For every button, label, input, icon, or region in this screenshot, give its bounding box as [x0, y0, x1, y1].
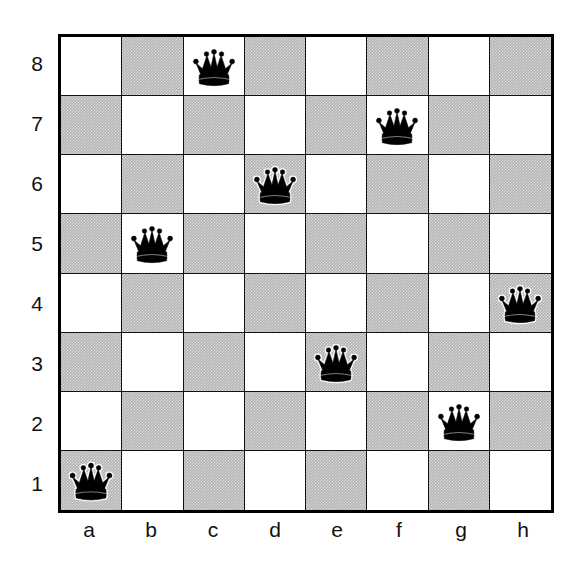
square-d1[interactable]: [245, 451, 306, 510]
square-c8[interactable]: [184, 37, 245, 96]
file-label-b: b: [120, 519, 182, 555]
square-c3[interactable]: [184, 333, 245, 392]
square-f3[interactable]: [367, 333, 428, 392]
queen-icon[interactable]: [129, 221, 175, 265]
square-h8[interactable]: [490, 37, 551, 96]
square-a5[interactable]: [61, 214, 122, 273]
square-d3[interactable]: [245, 333, 306, 392]
square-g2[interactable]: [429, 392, 490, 451]
square-b3[interactable]: [122, 333, 183, 392]
square-a1[interactable]: [61, 451, 122, 510]
square-f2[interactable]: [367, 392, 428, 451]
square-a2[interactable]: [61, 392, 122, 451]
square-e4[interactable]: [306, 274, 367, 333]
rank-label-5: 5: [12, 214, 50, 274]
square-h6[interactable]: [490, 155, 551, 214]
square-f6[interactable]: [367, 155, 428, 214]
square-f1[interactable]: [367, 451, 428, 510]
rank-label-1: 1: [12, 453, 50, 513]
square-a8[interactable]: [61, 37, 122, 96]
square-f5[interactable]: [367, 214, 428, 273]
file-label-f: f: [368, 519, 430, 555]
square-e5[interactable]: [306, 214, 367, 273]
square-e2[interactable]: [306, 392, 367, 451]
square-b6[interactable]: [122, 155, 183, 214]
queen-icon[interactable]: [68, 458, 114, 503]
square-g4[interactable]: [429, 274, 490, 333]
queen-icon[interactable]: [191, 44, 237, 88]
square-c4[interactable]: [184, 274, 245, 333]
square-d7[interactable]: [245, 96, 306, 155]
file-label-d: d: [244, 519, 306, 555]
square-a6[interactable]: [61, 155, 122, 214]
rank-label-axis: 87654321: [12, 34, 50, 513]
queen-icon[interactable]: [436, 399, 482, 443]
square-e7[interactable]: [306, 96, 367, 155]
square-e6[interactable]: [306, 155, 367, 214]
chess-diagram: 87654321 abcdefgh: [0, 0, 585, 575]
square-f7[interactable]: [367, 96, 428, 155]
square-g3[interactable]: [429, 333, 490, 392]
file-label-g: g: [430, 519, 492, 555]
file-label-c: c: [182, 519, 244, 555]
square-h4[interactable]: [490, 274, 551, 333]
square-a7[interactable]: [61, 96, 122, 155]
square-c7[interactable]: [184, 96, 245, 155]
square-e3[interactable]: [306, 333, 367, 392]
square-b4[interactable]: [122, 274, 183, 333]
square-d4[interactable]: [245, 274, 306, 333]
square-g5[interactable]: [429, 214, 490, 273]
queen-icon[interactable]: [313, 340, 359, 384]
rank-label-4: 4: [12, 274, 50, 334]
queen-icon[interactable]: [252, 162, 298, 206]
square-d6[interactable]: [245, 155, 306, 214]
square-b5[interactable]: [122, 214, 183, 273]
square-b8[interactable]: [122, 37, 183, 96]
square-h1[interactable]: [490, 451, 551, 510]
queen-icon[interactable]: [374, 103, 420, 147]
file-label-axis: abcdefgh: [58, 519, 554, 555]
square-h3[interactable]: [490, 333, 551, 392]
square-c6[interactable]: [184, 155, 245, 214]
square-d2[interactable]: [245, 392, 306, 451]
square-g7[interactable]: [429, 96, 490, 155]
square-h2[interactable]: [490, 392, 551, 451]
square-g6[interactable]: [429, 155, 490, 214]
square-g8[interactable]: [429, 37, 490, 96]
square-a4[interactable]: [61, 274, 122, 333]
square-h7[interactable]: [490, 96, 551, 155]
square-e1[interactable]: [306, 451, 367, 510]
square-b1[interactable]: [122, 451, 183, 510]
square-f8[interactable]: [367, 37, 428, 96]
file-label-e: e: [306, 519, 368, 555]
square-b7[interactable]: [122, 96, 183, 155]
square-c1[interactable]: [184, 451, 245, 510]
rank-label-7: 7: [12, 94, 50, 154]
square-h5[interactable]: [490, 214, 551, 273]
square-c2[interactable]: [184, 392, 245, 451]
rank-label-8: 8: [12, 34, 50, 94]
rank-label-6: 6: [12, 154, 50, 214]
file-label-h: h: [492, 519, 554, 555]
queen-icon[interactable]: [497, 280, 544, 324]
square-f4[interactable]: [367, 274, 428, 333]
square-a3[interactable]: [61, 333, 122, 392]
rank-label-3: 3: [12, 333, 50, 393]
file-label-a: a: [58, 519, 120, 555]
square-d8[interactable]: [245, 37, 306, 96]
square-e8[interactable]: [306, 37, 367, 96]
square-b2[interactable]: [122, 392, 183, 451]
square-d5[interactable]: [245, 214, 306, 273]
chessboard-grid[interactable]: [58, 34, 554, 513]
rank-label-2: 2: [12, 393, 50, 453]
square-c5[interactable]: [184, 214, 245, 273]
square-g1[interactable]: [429, 451, 490, 510]
